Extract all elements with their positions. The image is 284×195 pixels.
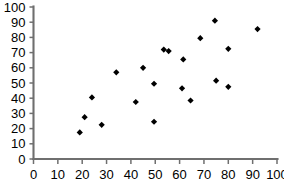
data-point[interactable]: [213, 78, 219, 84]
data-point[interactable]: [77, 129, 83, 135]
y-tick-label: 60: [11, 60, 25, 75]
data-point[interactable]: [197, 35, 203, 41]
data-point[interactable]: [161, 46, 167, 52]
data-point[interactable]: [179, 85, 185, 91]
data-point[interactable]: [151, 81, 157, 87]
data-point[interactable]: [212, 18, 218, 24]
x-tick-label: 20: [75, 167, 89, 182]
data-point[interactable]: [180, 56, 186, 62]
y-tick-label: 70: [11, 45, 25, 60]
x-tick-label: 100: [266, 167, 284, 182]
y-tick-label: 0: [18, 152, 25, 167]
data-point[interactable]: [99, 122, 105, 128]
y-tick-label: 30: [11, 106, 25, 121]
data-point[interactable]: [166, 48, 172, 54]
data-point[interactable]: [82, 114, 88, 120]
x-tick-label: 10: [51, 167, 65, 182]
data-point[interactable]: [187, 97, 193, 103]
y-tick-label: 100: [4, 0, 26, 15]
x-tick-label: 60: [172, 167, 186, 182]
x-tick-label: 0: [30, 167, 37, 182]
data-point[interactable]: [151, 119, 157, 125]
y-tick-label: 40: [11, 91, 25, 106]
x-tick-label: 70: [197, 167, 211, 182]
y-tick-label: 90: [11, 15, 25, 30]
cropped-caption-text: [2, 184, 162, 195]
y-tick-label: 10: [11, 136, 25, 151]
data-point[interactable]: [89, 94, 95, 100]
y-tick-label: 20: [11, 121, 25, 136]
data-point[interactable]: [140, 65, 146, 71]
data-point[interactable]: [225, 46, 231, 52]
x-tick-label: 80: [221, 167, 235, 182]
data-point[interactable]: [254, 26, 260, 32]
x-tick-label: 90: [245, 167, 259, 182]
y-tick-label: 50: [11, 76, 25, 91]
scatter-plot-svg: 0102030405060708090100010203040506070809…: [0, 0, 284, 195]
scatter-chart: 0102030405060708090100010203040506070809…: [0, 0, 284, 195]
data-point[interactable]: [225, 84, 231, 90]
y-tick-label: 80: [11, 30, 25, 45]
x-tick-label: 30: [99, 167, 113, 182]
data-point[interactable]: [113, 69, 119, 75]
data-point[interactable]: [133, 99, 139, 105]
x-tick-label: 40: [124, 167, 138, 182]
x-tick-label: 50: [148, 167, 162, 182]
